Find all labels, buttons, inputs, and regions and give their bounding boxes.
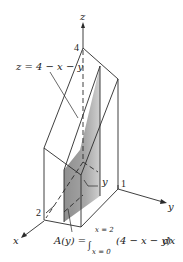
y-axis-arrow-icon <box>160 199 167 204</box>
x-axis-label: x <box>13 235 19 246</box>
formula-lower-limit: x = 0 <box>92 248 111 256</box>
y-tick-1: 1 <box>121 178 126 189</box>
z-tick-4: 4 <box>74 42 79 53</box>
z-axis-label: z <box>79 11 86 22</box>
formula-lhs: A(y) = <box>53 235 86 246</box>
formula-differential: dx <box>163 235 175 246</box>
solid-cross-section-diagram: z 4 z = 4 − x − y y 1 y 2 x A(y) = ∫ x =… <box>0 0 183 262</box>
surface-label-leader <box>50 72 78 118</box>
x-axis-arrow-icon <box>21 232 27 238</box>
surface-equation-label: z = 4 − x − y <box>15 61 83 72</box>
x-tick-2: 2 <box>36 207 41 218</box>
slice-y-label: y <box>101 176 108 187</box>
y-axis-label: y <box>167 201 174 212</box>
area-formula: A(y) = ∫ x = 2 x = 0 (4 − x − y) dx <box>53 226 175 256</box>
formula-upper-limit: x = 2 <box>95 226 114 234</box>
solid-edges <box>44 48 118 227</box>
z-axis-arrow-icon <box>81 22 85 28</box>
